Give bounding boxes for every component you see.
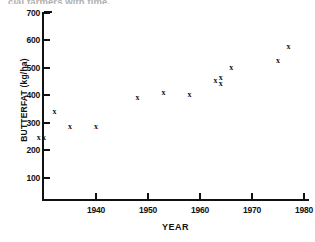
- x-tick-label-1970: 1970: [232, 205, 272, 215]
- x-tick-label-1950: 1950: [128, 205, 168, 215]
- data-point: x: [41, 134, 48, 141]
- data-point: x: [217, 80, 224, 87]
- data-point: x: [228, 64, 235, 71]
- data-point: x: [67, 123, 74, 130]
- data-point: x: [186, 91, 193, 98]
- x-tick-1980: [303, 193, 305, 200]
- x-tick-1940: [95, 193, 97, 200]
- x-tick-label-1940: 1940: [76, 205, 116, 215]
- x-tick-1950: [147, 193, 149, 200]
- x-tick-label-1980: 1980: [284, 205, 315, 215]
- y-tick-500: [44, 67, 50, 69]
- y-tick-400: [44, 94, 50, 96]
- data-point: x: [51, 108, 58, 115]
- y-tick-600: [44, 39, 50, 41]
- chart-root: cial farmers with time. 1002003004005006…: [0, 0, 315, 242]
- y-axis-title: BUTTERFAT (kg/ha): [19, 40, 29, 160]
- y-tick-100: [44, 177, 50, 179]
- y-tick-label-700: 700: [6, 8, 40, 18]
- top-caption: cial farmers with time.: [8, 0, 208, 4]
- x-axis-line: [42, 199, 309, 201]
- data-point: x: [134, 94, 141, 101]
- x-tick-label-1960: 1960: [180, 205, 220, 215]
- y-tick-label-100: 100: [6, 173, 40, 183]
- data-point: x: [285, 43, 292, 50]
- data-point: x: [160, 89, 167, 96]
- data-point: x: [93, 123, 100, 130]
- y-tick-300: [44, 122, 50, 124]
- x-axis-title: YEAR: [42, 222, 309, 232]
- y-tick-200: [44, 149, 50, 151]
- x-tick-1970: [251, 193, 253, 200]
- y-axis-top-cap: [44, 11, 52, 13]
- data-point: x: [275, 57, 282, 64]
- x-tick-1960: [199, 193, 201, 200]
